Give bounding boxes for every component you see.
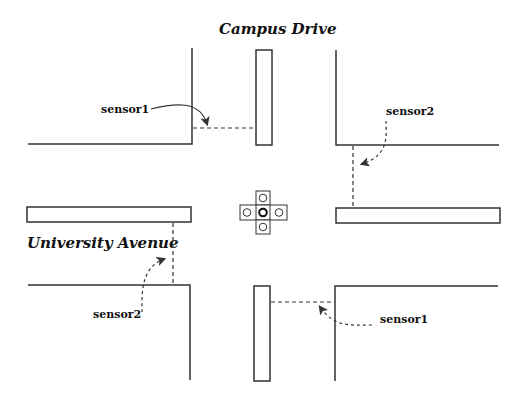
sensor-top-right: sensor2	[353, 105, 434, 207]
traffic-light-icon	[240, 191, 287, 234]
sensor-bottom-right: sensor1	[271, 302, 428, 326]
curb-bottom-left	[28, 285, 190, 380]
curb-top-left	[28, 48, 192, 144]
median-south	[254, 286, 270, 381]
arrow-icon	[320, 307, 372, 325]
sensor-label: sensor1	[380, 313, 428, 326]
sensor-label: sensor2	[93, 308, 141, 321]
curb-top-right	[336, 50, 499, 145]
street-label-university-avenue: University Avenue	[27, 234, 179, 252]
sensor-top-left: sensor1	[101, 103, 256, 128]
sensor-label: sensor2	[386, 105, 434, 118]
median-west	[27, 207, 191, 222]
median-east	[336, 208, 500, 223]
intersection-diagram: Campus Drive University Avenue sensor1 s…	[0, 0, 512, 400]
street-label-campus-drive: Campus Drive	[219, 20, 336, 38]
arrow-icon	[362, 121, 386, 164]
sensor-label: sensor1	[101, 103, 149, 116]
median-north	[256, 50, 272, 145]
curb-bottom-right	[335, 286, 498, 381]
arrow-icon	[151, 105, 207, 124]
